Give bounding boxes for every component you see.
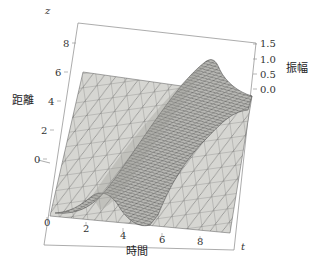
amplitude-axis-label: 振幅 bbox=[286, 61, 308, 75]
svg-text:8: 8 bbox=[197, 236, 203, 247]
svg-text:0: 0 bbox=[34, 154, 40, 165]
svg-text:1.0: 1.0 bbox=[260, 54, 276, 65]
amplitude-tick-labels: 1.5 1.0 0.5 0.0 bbox=[260, 38, 276, 95]
svg-text:0.0: 0.0 bbox=[260, 84, 276, 95]
svg-text:0.5: 0.5 bbox=[260, 69, 276, 80]
svg-text:4: 4 bbox=[120, 230, 126, 241]
svg-text:6: 6 bbox=[159, 234, 165, 245]
z-axis-symbol: z bbox=[44, 5, 51, 16]
z-tick-labels: 8 6 4 2 0 bbox=[34, 38, 69, 165]
svg-text:1.5: 1.5 bbox=[260, 38, 276, 49]
distance-axis-label: 距離 bbox=[12, 93, 34, 107]
svg-text:8: 8 bbox=[63, 38, 69, 49]
t-axis-symbol: t bbox=[241, 241, 246, 252]
svg-text:0: 0 bbox=[44, 217, 50, 228]
svg-text:2: 2 bbox=[41, 125, 47, 136]
svg-text:2: 2 bbox=[83, 223, 89, 234]
time-axis-label: 時間 bbox=[126, 245, 148, 258]
surface-plot: 8 6 4 2 0 1.5 1.0 0.5 0.0 0 2 4 6 8 z t … bbox=[0, 0, 314, 265]
svg-text:4: 4 bbox=[48, 96, 54, 107]
svg-text:6: 6 bbox=[55, 67, 61, 78]
